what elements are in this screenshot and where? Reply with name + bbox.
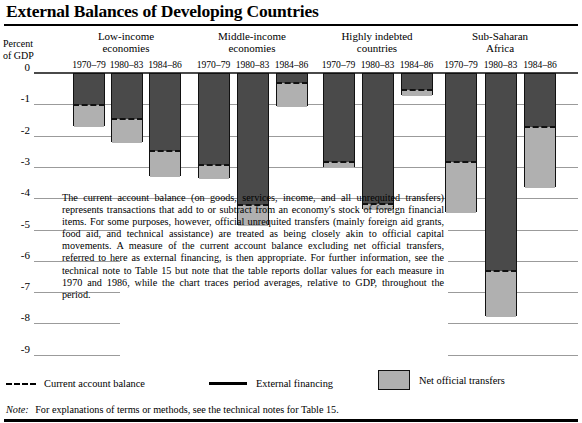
bar bbox=[401, 73, 433, 95]
y-axis-tick-label: -4 bbox=[2, 186, 30, 198]
bar-segment-external-financing bbox=[446, 74, 476, 162]
group-header-line1: Highly indebted bbox=[307, 30, 447, 42]
group-header-line2: economies bbox=[182, 42, 322, 54]
bar-segment-external-financing bbox=[74, 74, 104, 105]
bar bbox=[323, 73, 355, 167]
bar bbox=[198, 73, 230, 178]
bar-segment-external-financing bbox=[324, 74, 354, 162]
bar-segment-external-financing bbox=[199, 74, 229, 165]
group-header-line1: Sub-Saharan bbox=[430, 30, 570, 42]
gridline bbox=[34, 355, 120, 356]
bar bbox=[485, 73, 517, 316]
solid-line-icon bbox=[209, 382, 247, 385]
current-account-balance-marker bbox=[323, 161, 355, 163]
chart-legend: Current account balance External financi… bbox=[0, 378, 582, 398]
group-header-3: Highly indebtedcountries bbox=[307, 30, 447, 55]
shaded-swatch-icon bbox=[378, 370, 410, 390]
legend-item-external-financing: External financing bbox=[209, 378, 333, 389]
bar-segment-net-official-transfers bbox=[150, 151, 180, 178]
y-axis-tick-label: -2 bbox=[2, 124, 30, 136]
period-label: 1984–86 bbox=[266, 59, 318, 70]
axis-caption-line2: of GDP bbox=[3, 50, 34, 62]
bar bbox=[73, 73, 105, 126]
bar-segment-net-official-transfers bbox=[277, 83, 307, 106]
bar-segment-net-official-transfers bbox=[112, 119, 142, 142]
y-axis-tick-label: -5 bbox=[2, 218, 30, 230]
current-account-balance-marker bbox=[401, 89, 433, 91]
current-account-balance-marker bbox=[445, 161, 477, 163]
axis-caption: Percent of GDP bbox=[3, 38, 34, 61]
legend-label-current-account-balance: Current account balance bbox=[44, 378, 145, 389]
current-account-balance-marker bbox=[111, 118, 143, 120]
group-header-line2: countries bbox=[307, 42, 447, 54]
explanatory-text: The current account balance (on goods, s… bbox=[62, 192, 444, 301]
footnote: Note: For explanations of terms or metho… bbox=[6, 404, 339, 415]
bar-segment-external-financing bbox=[363, 74, 393, 204]
gridline bbox=[34, 323, 120, 324]
bar-segment-external-financing bbox=[486, 74, 516, 271]
legend-item-net-official-transfers: Net official transfers bbox=[378, 370, 505, 390]
period-label: 1984–86 bbox=[514, 59, 566, 70]
current-account-balance-marker bbox=[276, 82, 308, 84]
group-header-line1: Middle-income bbox=[182, 30, 322, 42]
bottom-divider bbox=[4, 419, 578, 422]
footnote-text: For explanations of terms or methods, se… bbox=[35, 404, 339, 415]
current-account-balance-marker bbox=[73, 104, 105, 106]
bar bbox=[445, 73, 477, 212]
y-axis-tick-label: -9 bbox=[2, 343, 30, 355]
bar bbox=[149, 73, 181, 176]
bar bbox=[362, 73, 394, 209]
bar-segment-external-financing bbox=[402, 74, 432, 90]
footnote-label: Note: bbox=[6, 404, 29, 415]
bar-segment-external-financing bbox=[525, 74, 555, 127]
bar-segment-external-financing bbox=[238, 74, 268, 205]
axis-caption-line1: Percent bbox=[3, 38, 34, 50]
bar-segment-net-official-transfers bbox=[486, 271, 516, 316]
legend-item-current-account-balance: Current account balance bbox=[6, 378, 145, 389]
y-axis-tick-label: -6 bbox=[2, 249, 30, 261]
y-axis-tick-label: 0 bbox=[2, 61, 30, 73]
y-axis-tick-label: -3 bbox=[2, 155, 30, 167]
bar bbox=[276, 73, 308, 106]
y-axis-tick-label: -8 bbox=[2, 311, 30, 323]
page-title: External Balances of Developing Countrie… bbox=[6, 1, 319, 22]
group-header-2: Middle-incomeeconomies bbox=[182, 30, 322, 55]
title-divider bbox=[4, 24, 578, 26]
bar-segment-net-official-transfers bbox=[525, 127, 555, 188]
bar bbox=[524, 73, 556, 187]
period-label: 1984–86 bbox=[139, 59, 191, 70]
bar-segment-net-official-transfers bbox=[446, 162, 476, 214]
current-account-balance-marker bbox=[149, 150, 181, 152]
current-account-balance-marker bbox=[524, 126, 556, 128]
bar bbox=[111, 73, 143, 142]
bar-segment-net-official-transfers bbox=[74, 105, 104, 127]
group-header-1: Low-incomeeconomies bbox=[56, 30, 196, 55]
legend-label-external-financing: External financing bbox=[256, 378, 333, 389]
bar-segment-net-official-transfers bbox=[199, 165, 229, 179]
y-axis-tick-label: -7 bbox=[2, 280, 30, 292]
y-axis-tick-label: -1 bbox=[2, 92, 30, 104]
group-header-4: Sub-SaharanAfrica bbox=[430, 30, 570, 55]
gridline bbox=[448, 355, 578, 356]
dashed-line-icon bbox=[6, 383, 36, 385]
gridline bbox=[448, 323, 578, 324]
bar-segment-external-financing bbox=[150, 74, 180, 151]
group-header-line1: Low-income bbox=[56, 30, 196, 42]
group-header-line2: economies bbox=[56, 42, 196, 54]
legend-label-net-official-transfers: Net official transfers bbox=[419, 375, 505, 386]
current-account-balance-marker bbox=[198, 164, 230, 166]
group-header-line2: Africa bbox=[430, 42, 570, 54]
bar-segment-external-financing bbox=[112, 74, 142, 119]
current-account-balance-marker bbox=[485, 270, 517, 272]
